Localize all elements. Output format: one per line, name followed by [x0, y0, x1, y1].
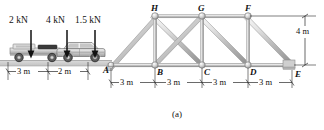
car [57, 43, 105, 62]
truss-node-label-B: B [157, 68, 163, 77]
truss-node-label-E: E [295, 70, 301, 79]
truss-verticals [153, 16, 249, 65]
truss-node-label-C: C [204, 68, 210, 77]
dimension-label-3m-ab: 3 m [120, 78, 133, 87]
dimension-label-3m-bc: 3 m [167, 78, 180, 87]
flatbed-truck [10, 44, 60, 62]
dimension-label-3m-cd: 3 m [213, 78, 226, 87]
dimension-label-2m-truck: 2 m [58, 67, 71, 76]
truss-bridge-figure: 2 kN 4 kN 1.5 kN 3 m 2 m H G F A B C D E… [0, 0, 324, 130]
load-label-2kn: 2 kN [9, 16, 28, 26]
support-E [283, 60, 295, 69]
figure-caption: (a) [172, 110, 182, 119]
height-dimension [250, 14, 316, 67]
dimension-label-3m-de: 3 m [259, 78, 272, 87]
dimension-label-4m: 4 m [296, 27, 309, 36]
truss-node-label-D: D [250, 68, 257, 77]
truss-node-label-H: H [151, 4, 158, 13]
truss-node-label-A: A [103, 66, 109, 75]
dimension-label-3m-truck: 3 m [17, 67, 30, 76]
truss-structure [107, 13, 296, 71]
load-label-1p5kn: 1.5 kN [75, 16, 101, 26]
load-label-4kn: 4 kN [46, 16, 65, 26]
truss-node-label-F: F [245, 4, 251, 13]
truss-node-label-G: G [198, 4, 205, 13]
